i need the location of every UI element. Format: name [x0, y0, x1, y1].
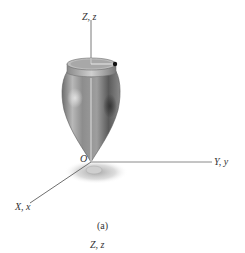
x-axis-label: X, x: [15, 202, 31, 212]
pivot-foot: [86, 166, 102, 174]
next-figure-z-label: Z, z: [90, 240, 104, 250]
spinning-top-figure: Z, z Y, y X, x O (a) Z, z: [0, 0, 245, 253]
vessel-highlight: [67, 88, 83, 108]
y-axis-label: Y, y: [214, 157, 228, 167]
figure-caption: (a): [97, 221, 108, 231]
origin-label: O: [80, 154, 87, 164]
diagram-canvas: [0, 0, 245, 253]
vessel-dark-patch: [103, 94, 117, 118]
rim-marker-dot: [113, 62, 117, 66]
z-axis-label: Z, z: [82, 12, 96, 22]
